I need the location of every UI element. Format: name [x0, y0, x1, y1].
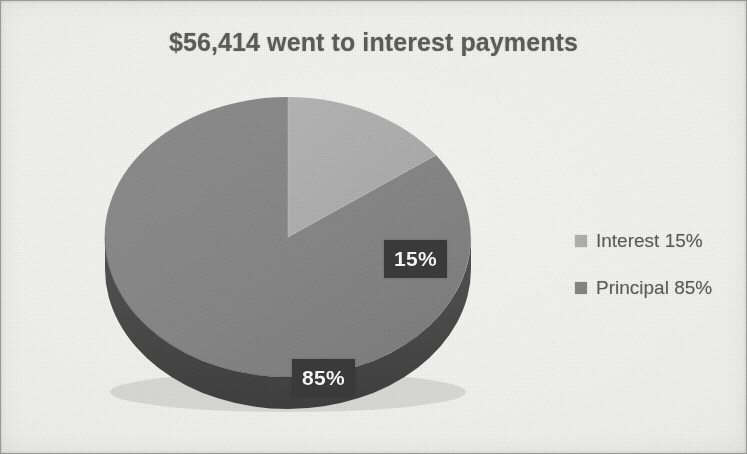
data-label-principal: 85% — [292, 359, 355, 397]
legend-item-principal[interactable]: Principal 85% — [575, 275, 712, 301]
chart-title: $56,414 went to interest payments — [0, 28, 747, 57]
chart-legend: Interest 15% Principal 85% — [575, 228, 712, 322]
data-label-interest: 15% — [384, 240, 447, 278]
legend-item-interest[interactable]: Interest 15% — [575, 228, 712, 254]
legend-label-interest: Interest 15% — [596, 230, 703, 252]
pie-chart: 15% 85% — [96, 92, 488, 412]
pie-chart-screenshot: $56,414 went to interest payments — [0, 0, 747, 454]
legend-label-principal: Principal 85% — [596, 277, 712, 299]
legend-swatch-principal-icon — [575, 282, 587, 294]
legend-swatch-interest-icon — [575, 235, 587, 247]
